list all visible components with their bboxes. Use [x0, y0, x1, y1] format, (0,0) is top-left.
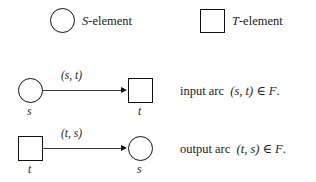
input-arc-source-circle	[18, 78, 43, 103]
output-arc-label: (t, s)	[61, 128, 82, 140]
legend-suffix-s: -element	[88, 14, 132, 28]
output-arc-source-label: t	[28, 164, 31, 176]
output-arc-operator: ∈	[263, 142, 272, 156]
input-arc-operator: ∈	[256, 84, 265, 98]
input-arc-target-label: t	[138, 106, 141, 118]
output-arc-description: output arc (t, s) ∈ F.	[180, 143, 286, 156]
input-arc-target-square	[128, 78, 153, 103]
input-arc-line	[43, 90, 122, 92]
arrowhead-right-icon	[121, 87, 127, 93]
legend-item-t-element: T-element	[232, 15, 283, 28]
input-arc-period: .	[276, 84, 279, 98]
square-shape-icon	[200, 9, 225, 33]
output-arc-kind: output arc	[180, 142, 230, 156]
input-arc-label: (s, t)	[61, 70, 82, 82]
legend-suffix-t: -element	[239, 14, 283, 28]
output-arc-period: .	[283, 142, 286, 156]
arrowhead-right-icon	[121, 145, 127, 151]
petri-net-notation-figure: S-element T-element s (s, t) t input arc…	[0, 0, 316, 182]
input-arc-kind: input arc	[180, 84, 224, 98]
input-arc-description: input arc (s, t) ∈ F.	[180, 85, 280, 98]
output-arc-target-label: s	[137, 164, 141, 176]
output-arc-source-square	[18, 136, 43, 161]
input-arc-source-label: s	[27, 106, 31, 118]
legend-item-s-element: S-element	[82, 15, 132, 28]
legend-symbol-t: T	[232, 14, 239, 28]
circle-shape-icon	[50, 8, 75, 33]
input-arc-pair: (s, t)	[230, 84, 253, 98]
output-arc-set: F	[275, 142, 283, 156]
output-arc-line	[43, 148, 122, 150]
output-arc-pair: (t, s)	[237, 142, 260, 156]
output-arc-target-circle	[128, 136, 153, 161]
